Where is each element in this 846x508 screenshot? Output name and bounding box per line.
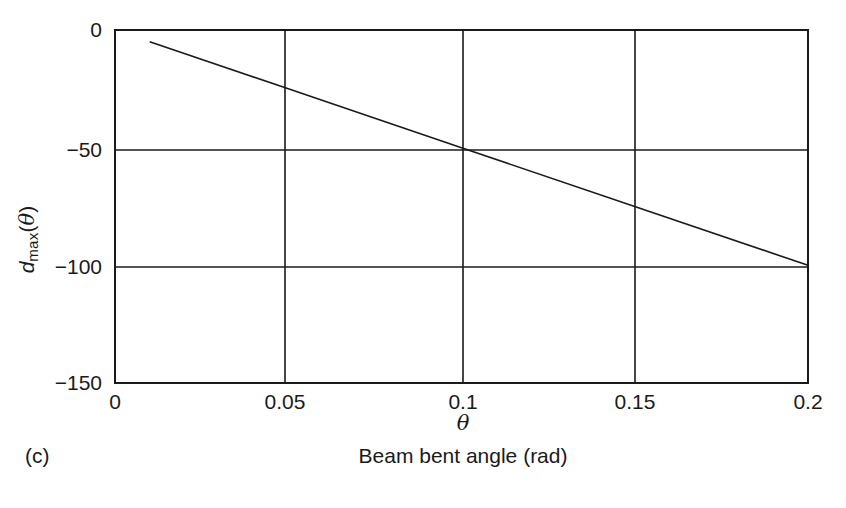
y-axis-title-paren-open: (	[15, 226, 38, 233]
y-axis-title-base: d	[15, 262, 38, 274]
y-tick-label-minus150: −150	[40, 372, 102, 393]
data-series-dmax	[150, 42, 808, 265]
y-axis-title-paren-close: )	[15, 206, 38, 213]
horizontal-gridlines	[115, 150, 808, 267]
y-axis-title-argument: θ	[15, 213, 39, 226]
x-tick-label-0-2: 0.2	[768, 391, 846, 412]
figure-caption: Beam bent angle (rad)	[0, 444, 846, 468]
plot-frame	[115, 30, 808, 383]
y-tick-label-0: 0	[40, 19, 102, 40]
x-tick-label-0-05: 0.05	[245, 391, 325, 412]
x-axis-title: θ	[0, 411, 846, 435]
vertical-gridlines	[285, 30, 635, 383]
x-tick-label-0: 0	[75, 391, 155, 412]
figure-panel-c: 0 −50 −100 −150 0 0.05 0.1 0.15 0.2 dmax…	[0, 0, 846, 508]
y-axis-title: dmax(θ)	[0, 150, 60, 330]
y-axis-title-subscript: max	[25, 233, 42, 262]
x-tick-label-0-15: 0.15	[595, 391, 675, 412]
x-tick-label-0-1: 0.1	[423, 391, 503, 412]
x-axis-title-symbol: θ	[457, 411, 470, 435]
